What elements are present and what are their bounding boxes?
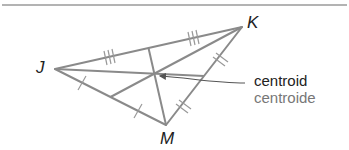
vertex-label-k: K — [247, 14, 258, 31]
medians — [55, 27, 242, 125]
median-from-m — [149, 48, 167, 125]
centroid-label-english: centroid — [254, 73, 307, 88]
tick-marks-km — [176, 53, 228, 113]
centroid-label-spanish: centroide — [254, 90, 316, 105]
median-from-k — [111, 27, 243, 97]
vertex-label-m: M — [160, 130, 174, 147]
vertex-label-j: J — [36, 59, 45, 76]
median-from-j — [55, 69, 204, 76]
